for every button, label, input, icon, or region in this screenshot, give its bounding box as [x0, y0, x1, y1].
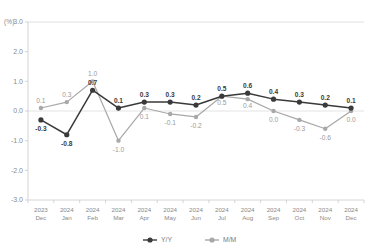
data-label-yy: -0.3 [35, 125, 47, 132]
data-point [245, 97, 249, 101]
data-label-mm: 0.5 [217, 99, 226, 106]
x-tick-label-month: Dec [346, 214, 357, 221]
data-label-yy: 0.5 [217, 85, 226, 92]
data-label-mm: 0.0 [346, 116, 355, 123]
data-point [38, 117, 43, 122]
x-tick-label-year: 2024 [293, 206, 307, 213]
data-label-yy: 0.3 [295, 91, 304, 98]
x-tick-label-year: 2024 [86, 206, 100, 213]
chart-container: (%) 3.02.01.00.0-1.0-2.0-3.0 2023Dec2024… [0, 0, 371, 251]
data-point [245, 91, 250, 96]
data-point [64, 132, 69, 137]
data-point [323, 102, 328, 107]
data-point [168, 100, 173, 105]
data-label-mm: 1.0 [88, 70, 97, 77]
y-axis-ticks-group: 3.02.01.00.0-1.0-2.0-3.0 [11, 18, 28, 203]
y-tick-label: -2.0 [11, 167, 23, 174]
x-tick-label-year: 2024 [60, 206, 74, 213]
x-tick-label-month: Aug [242, 214, 254, 221]
x-tick-label-month: Apr [139, 214, 149, 221]
data-label-mm: 0.1 [140, 113, 149, 120]
x-tick-label-month: Jun [191, 214, 202, 221]
data-point [323, 127, 327, 131]
data-point [297, 118, 301, 122]
data-label-yy: 0.6 [243, 82, 252, 89]
data-point [219, 94, 224, 99]
x-tick-label-month: Nov [320, 214, 332, 221]
x-tick-label-year: 2024 [189, 206, 203, 213]
data-label-mm: -0.1 [164, 119, 176, 126]
data-label-yy: 0.3 [140, 91, 149, 98]
x-tick-label-month: May [164, 214, 177, 221]
data-label-yy: 0.2 [321, 94, 330, 101]
data-point [142, 100, 147, 105]
gridlines-group [28, 22, 364, 200]
data-label-yy: 0.7 [88, 79, 97, 86]
x-tick-label-year: 2024 [241, 206, 255, 213]
data-point [116, 105, 121, 110]
line-chart-svg: 3.02.01.00.0-1.0-2.0-3.0 2023Dec2024Jan2… [0, 0, 371, 251]
x-tick-label-month: Oct [295, 214, 305, 221]
data-point [297, 100, 302, 105]
legend-label[interactable]: Y/Y [161, 236, 172, 243]
data-label-mm: 0.3 [62, 91, 71, 98]
data-label-mm: -0.2 [190, 122, 202, 129]
data-point [116, 138, 120, 142]
data-point [90, 88, 95, 93]
x-tick-label-year: 2024 [137, 206, 151, 213]
x-tick-label-month: Jul [218, 214, 226, 221]
x-tick-label-month: Dec [35, 214, 46, 221]
legend-group: Y/YM/M [143, 236, 237, 243]
y-tick-label: 1.0 [13, 78, 23, 85]
data-point [271, 109, 275, 113]
top-margin-strip [0, 0, 371, 9]
data-label-yy: 0.2 [191, 94, 200, 101]
y-tick-label: -3.0 [11, 196, 23, 203]
plot-area: 3.02.01.00.0-1.0-2.0-3.0 2023Dec2024Jan2… [0, 0, 371, 251]
x-tick-label-year: 2024 [112, 206, 126, 213]
data-label-mm: -1.0 [113, 146, 125, 153]
data-label-yy: -0.8 [61, 140, 73, 147]
x-tick-label-year: 2024 [344, 206, 358, 213]
x-tick-label-month: Jan [62, 214, 73, 221]
data-point [65, 100, 69, 104]
data-label-yy: 0.4 [269, 88, 278, 95]
data-point [168, 112, 172, 116]
data-label-mm: 0.4 [243, 102, 252, 109]
data-label-yy: 0.3 [166, 91, 175, 98]
data-point [194, 115, 198, 119]
x-tick-label-month: Sep [268, 214, 280, 221]
data-label-mm: 0.1 [36, 97, 45, 104]
legend-label[interactable]: M/M [223, 236, 237, 243]
x-tick-label-year: 2024 [267, 206, 281, 213]
x-tick-label-year: 2024 [318, 206, 332, 213]
x-axis-ticks-group: 2023Dec2024Jan2024Feb2024Mar2024Apr2024M… [28, 200, 364, 221]
y-tick-label: 0.0 [13, 107, 23, 114]
data-point [348, 105, 353, 110]
data-label-yy: 0.1 [114, 97, 123, 104]
data-label-yy: 0.1 [346, 97, 355, 104]
data-point [271, 97, 276, 102]
x-tick-label-month: Feb [87, 214, 98, 221]
y-tick-label: 3.0 [13, 18, 23, 25]
x-tick-label-year: 2024 [215, 206, 229, 213]
legend-marker [209, 237, 214, 242]
x-tick-label-month: Mar [113, 214, 124, 221]
x-tick-label-year: 2023 [34, 206, 48, 213]
data-point [39, 106, 43, 110]
data-label-mm: 0.0 [269, 116, 278, 123]
data-label-mm: -0.3 [294, 125, 306, 132]
y-tick-label: 2.0 [13, 48, 23, 55]
data-point [193, 102, 198, 107]
x-tick-label-year: 2024 [163, 206, 177, 213]
y-tick-label: -1.0 [11, 137, 23, 144]
data-label-mm: -0.6 [320, 134, 332, 141]
legend-marker [147, 237, 152, 242]
data-point [142, 106, 146, 110]
